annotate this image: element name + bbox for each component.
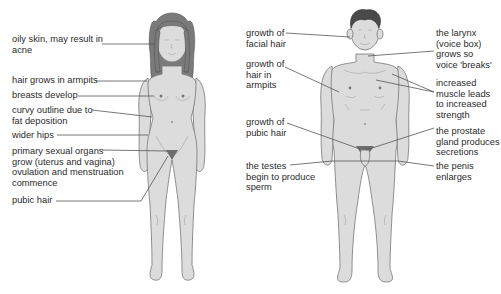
label-breasts-develop: breasts develop	[12, 90, 78, 101]
male-figure	[321, 10, 409, 282]
label-prostate: the prostate gland produces secretions	[436, 126, 500, 158]
label-armpit-hair-female: hair grows in armpits	[12, 75, 98, 86]
label-curvy-outline: curvy outline due to fat deposition	[12, 105, 93, 126]
label-pubic-hair-male: growth of pubic hair	[246, 117, 286, 138]
label-testes: the testes begin to produce sperm	[246, 161, 315, 193]
label-wider-hips: wider hips	[12, 130, 54, 141]
label-penis: the penis enlarges	[436, 161, 474, 182]
label-oily-skin: oily skin, may result in acne	[12, 34, 103, 55]
puberty-diagram: oily skin, may result in acne hair grows…	[0, 0, 501, 294]
label-armpit-hair-male: growth of hair in armpits	[246, 59, 284, 91]
label-muscle: increased muscle leads to increased stre…	[436, 78, 490, 120]
label-larynx: the larynx (voice box) grows so voice 'b…	[436, 28, 492, 70]
label-primary-sexual-organs: primary sexual organs grow (uterus and v…	[12, 146, 124, 188]
label-pubic-hair-female: pubic hair	[12, 195, 52, 206]
label-facial-hair: growth of facial hair	[246, 28, 286, 49]
female-figure	[139, 13, 205, 280]
